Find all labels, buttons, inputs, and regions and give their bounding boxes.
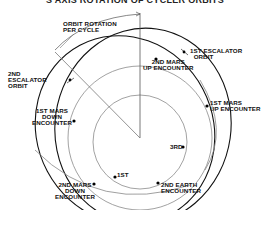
label-orbit-rotation: ORBIT ROTATION PER CYCLE: [63, 21, 117, 33]
point-1st-mars-down: [72, 119, 75, 122]
label-second-earth: 2ND EARTH ENCOUNTER: [161, 182, 201, 194]
label-second-mars-down: 2ND MARS DOWN ENCOUNTER: [55, 182, 95, 200]
label-first-escalator-orbit: 1ST ESCALATOR ORBIT: [190, 48, 242, 60]
label-second-escalator-orbit: 2ND ESCALATOR ORBIT: [8, 71, 47, 89]
label-third: 3RD: [170, 144, 183, 150]
label-first-mars-up: 1ST MARS UP ENCOUNTER: [210, 100, 261, 112]
point-2nd-earth: [156, 181, 159, 184]
point-1st-mars-up: [205, 104, 208, 107]
label-first: 1ST: [117, 172, 129, 178]
label-first-mars-down: 1ST MARS DOWN ENCOUNTER: [32, 108, 72, 126]
rotation-label-leader: [60, 34, 74, 48]
label-second-mars-up: 2ND MARS UP ENCOUNTER: [143, 59, 194, 71]
